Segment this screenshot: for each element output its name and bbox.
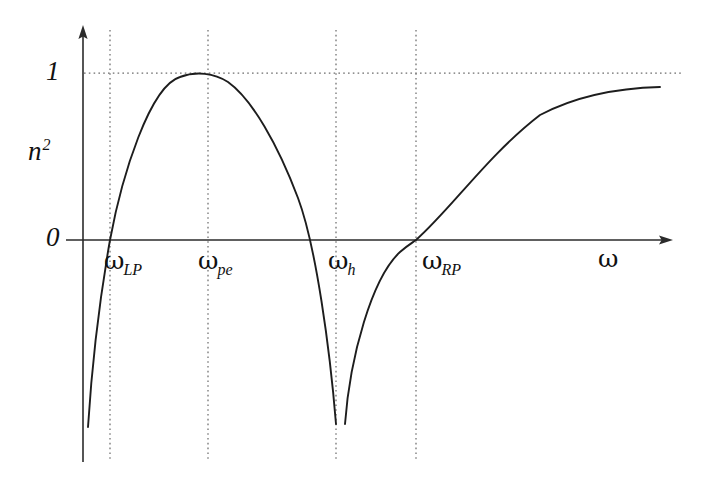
x-tick-label-omega-rp: ωRP xyxy=(422,248,462,273)
omega-glyph-rp: ω xyxy=(422,246,442,275)
omega-subscript-lp: LP xyxy=(123,261,142,278)
omega-glyph-axis: ω xyxy=(598,244,618,273)
omega-glyph-pe: ω xyxy=(198,246,218,275)
x-axis xyxy=(66,235,673,244)
x-tick-label-omega-h: ωh xyxy=(328,248,356,273)
y-axis-title-base: n xyxy=(28,136,42,166)
omega-subscript-rp: RP xyxy=(441,261,461,278)
y-axis-title: n2 xyxy=(28,138,50,165)
omega-subscript-pe: pe xyxy=(217,261,232,278)
omega-glyph-h: ω xyxy=(328,246,348,275)
x-tick-label-omega-pe: ωpe xyxy=(198,248,234,273)
dispersion-figure: 1 n2 0 ωLP ωpe ωh ωRP ω xyxy=(0,0,711,489)
omega-glyph-lp: ω xyxy=(104,246,124,275)
x-axis-title: ω xyxy=(598,246,618,271)
omega-subscript-h: h xyxy=(347,261,355,278)
y-axis xyxy=(78,25,87,462)
y-axis-tick-zero: 0 xyxy=(46,224,60,251)
vertical-guides xyxy=(110,30,416,462)
y-axis-title-exponent: 2 xyxy=(43,136,51,153)
x-tick-label-omega-lp: ωLP xyxy=(104,248,143,273)
y-axis-tick-one: 1 xyxy=(46,58,60,85)
